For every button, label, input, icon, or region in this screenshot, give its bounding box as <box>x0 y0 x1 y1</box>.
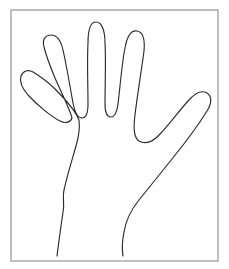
drawing-canvas: Black line-art outline of an open human … <box>0 0 229 269</box>
hand-outline-illustration <box>0 0 229 269</box>
rectangular-border <box>11 10 218 261</box>
